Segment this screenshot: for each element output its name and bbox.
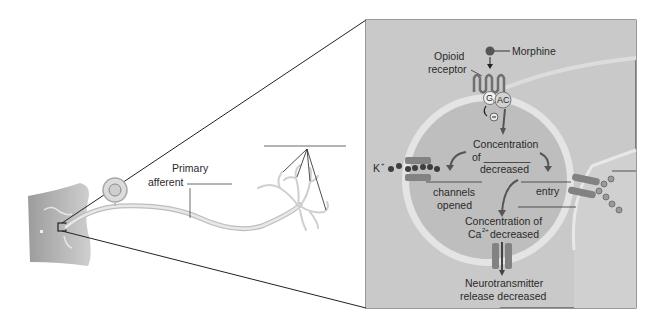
zoom-line-bottom (62, 231, 366, 308)
release-site-right (505, 243, 512, 269)
gi-label: G (486, 93, 493, 103)
decreased-label: decreased (480, 163, 529, 175)
opioid-receptor-label: Opioid (434, 50, 465, 62)
release-site-left (492, 243, 499, 269)
entry-label: entry (536, 185, 560, 197)
channels-label: channels (433, 186, 475, 198)
k-channel-bottom (405, 174, 431, 181)
ca-sup: 2+ (482, 227, 489, 233)
opioid-receptor-label-2: receptor (428, 63, 467, 75)
k-ion-sup: + (381, 161, 385, 167)
nerve-ending-dot (40, 230, 43, 233)
axon-terminal-cytoplasm (409, 101, 567, 259)
morphine-molecule (486, 47, 495, 56)
ca-concentration-label: Concentration of (465, 215, 542, 227)
concentration-of-label: of ________ (472, 151, 531, 163)
neurotransmitter-label: Neurotransmitter (465, 277, 544, 289)
morphine-label: Morphine (512, 45, 556, 57)
primary-afferent-label: Primary (172, 162, 209, 174)
k-ion-label: K (373, 162, 380, 174)
skin-tissue (28, 183, 91, 266)
concentration-label: Concentration (473, 138, 539, 150)
ca-decreased-label: decreased (490, 228, 539, 240)
nucleus (109, 184, 121, 196)
central-terminal-branches (258, 165, 328, 230)
gi-subscript: i (493, 98, 494, 104)
ca-label: Ca (468, 228, 482, 240)
diagram-canvas: Primary afferent Morphine Opioid recepto… (0, 0, 666, 328)
opened-label: opened (437, 199, 472, 211)
release-decreased-label: release decreased (460, 290, 547, 302)
k-channel-top (405, 157, 431, 164)
primary-afferent-label-2: afferent (148, 176, 183, 188)
primary-afferent-axon-core (66, 205, 300, 229)
ac-label: AC (497, 95, 510, 105)
